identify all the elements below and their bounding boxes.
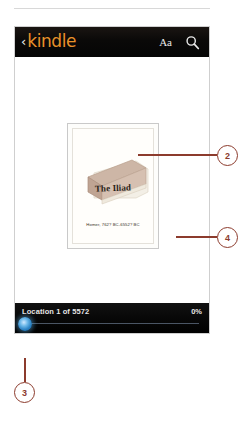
book-illustration-icon: [80, 151, 152, 207]
top-divider: [14, 8, 210, 9]
kindle-device-screen: ‹ kindle Aa: [14, 26, 210, 334]
progress-slider-track[interactable]: [25, 323, 199, 324]
reading-status-bar: Location 1 of 5572 0%: [15, 303, 209, 333]
callout-leader-3: [24, 358, 26, 382]
kindle-wordmark: kindle: [27, 33, 76, 50]
progress-percent-label: 0%: [191, 307, 202, 316]
location-label: Location 1 of 5572: [22, 307, 89, 316]
book-cover-author: Homer, 762? BC-6552? BC: [73, 222, 153, 227]
kindle-toolbar: ‹ kindle Aa: [15, 27, 209, 57]
callout-marker-4: 4: [217, 227, 238, 248]
book-cover-inner: The Iliad Homer, 762? BC-6552? BC: [72, 128, 154, 244]
search-icon[interactable]: [185, 35, 200, 50]
progress-slider-handle[interactable]: [18, 317, 32, 331]
callout-leader-2: [138, 154, 217, 156]
back-chevron-icon[interactable]: ‹: [21, 35, 26, 48]
callout-leader-4: [176, 236, 217, 238]
status-text-row: Location 1 of 5572 0%: [22, 307, 202, 316]
callout-marker-3: 3: [14, 382, 35, 403]
callout-marker-2: 2: [217, 145, 238, 166]
reading-page-area[interactable]: The Iliad Homer, 762? BC-6552? BC: [15, 57, 209, 303]
book-cover-card[interactable]: The Iliad Homer, 762? BC-6552? BC: [67, 123, 159, 249]
font-size-button[interactable]: Aa: [159, 37, 172, 48]
